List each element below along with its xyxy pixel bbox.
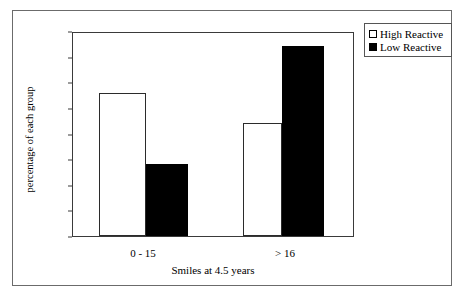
legend: High Reactive Low Reactive (364, 23, 452, 57)
bars-layer (73, 33, 353, 236)
legend-item-low-reactive[interactable]: Low Reactive (369, 40, 448, 53)
y-axis-title: percentage of each group (24, 65, 35, 215)
bar-chart: 0 10 20 30 40 50 60 70 80 percentage of … (0, 0, 462, 301)
filled-square-icon (369, 43, 377, 51)
x-axis-title: Smiles at 4.5 years (72, 264, 354, 276)
y-axis: 0 10 20 30 40 50 60 70 80 (0, 0, 72, 301)
hollow-square-icon (369, 30, 377, 38)
bar-low-reactive-gt-16[interactable] (282, 46, 324, 236)
bar-high-reactive-gt-16[interactable] (243, 123, 282, 236)
plot-area (72, 32, 354, 237)
x-tick-label-0-15: 0 - 15 (130, 247, 156, 259)
x-tick-label-gt-16: > 16 (275, 247, 295, 259)
bar-low-reactive-0-15[interactable] (146, 164, 188, 236)
legend-label-low-reactive: Low Reactive (380, 41, 441, 53)
legend-label-high-reactive: High Reactive (380, 28, 443, 40)
legend-item-high-reactive[interactable]: High Reactive (369, 27, 448, 40)
bar-high-reactive-0-15[interactable] (99, 93, 146, 237)
